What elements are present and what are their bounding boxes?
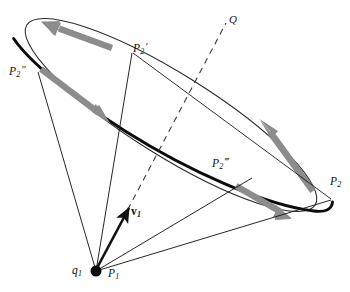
label-p2-triple-prime: P2‴: [212, 156, 229, 171]
label-v1-vector: v1: [131, 206, 141, 219]
tangent-arrows-group: [41, 21, 313, 220]
label-p2-double-prime: P2″: [9, 64, 26, 79]
label-p1: P1: [108, 268, 119, 281]
tangent-arrow-left-down-icon: [41, 69, 111, 124]
ellipse-front-arc: [14, 39, 333, 212]
apex-point-q1: [91, 266, 102, 277]
chord-p2-prime-to-p2: [133, 53, 331, 199]
tangent-arrow-top-left-icon: [41, 21, 112, 50]
diagram-canvas: [0, 0, 350, 292]
label-p2: P2: [330, 176, 341, 189]
radiating-lines-group: [38, 53, 331, 271]
tangent-arrow-bottom-right-icon: [236, 186, 292, 220]
label-q1-apex: q1: [72, 265, 82, 278]
ellipse-outline: [5, 0, 337, 240]
label-p2-prime: P2′: [133, 41, 148, 56]
label-q: Q: [229, 14, 237, 25]
ellipse-vector-diagram: P2′ P2″ P2‴ P2 Q v1 q1 P1: [0, 0, 350, 292]
